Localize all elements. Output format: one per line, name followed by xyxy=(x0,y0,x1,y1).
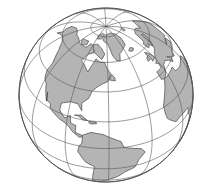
globe-map xyxy=(0,0,199,188)
globe-svg xyxy=(0,0,199,188)
